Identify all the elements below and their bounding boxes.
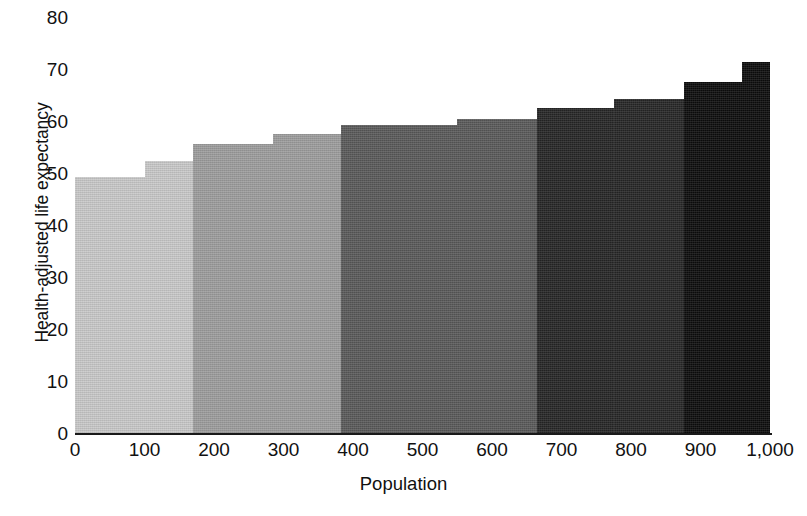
chart-container: Health-adjusted life expectancy 01020304…	[0, 0, 807, 516]
bar-segment	[684, 82, 742, 434]
x-tick-label: 700	[546, 439, 578, 461]
x-tick-label: 0	[70, 439, 81, 461]
bar-segment	[145, 161, 194, 434]
bar-segment	[273, 134, 341, 434]
x-tick-label: 600	[476, 439, 508, 461]
caption-fragment	[8, 506, 803, 515]
y-tick-label: 40	[2, 216, 68, 235]
x-tick-label: 100	[129, 439, 161, 461]
x-axis-line	[75, 433, 772, 435]
x-tick-label: 500	[407, 439, 439, 461]
x-axis-title: Population	[0, 473, 807, 495]
bar-segment	[341, 125, 457, 434]
y-tick-label: 20	[2, 320, 68, 339]
y-tick-label: 60	[2, 112, 68, 131]
x-tick-label: 900	[685, 439, 717, 461]
x-tick-label: 300	[268, 439, 300, 461]
bar-segment	[193, 144, 273, 434]
x-axis-tick-labels: 01002003004005006007008009001,000	[0, 439, 807, 467]
y-tick-label: 30	[2, 268, 68, 287]
y-tick-label: 10	[2, 372, 68, 391]
y-tick-label: 50	[2, 164, 68, 183]
y-tick-label: 80	[2, 8, 68, 27]
bar-segment	[614, 99, 684, 434]
y-tick-label: 70	[2, 60, 68, 79]
bar-segment	[742, 62, 770, 434]
x-tick-label: 800	[615, 439, 647, 461]
bar-segment	[537, 108, 613, 434]
plot-area	[75, 18, 770, 434]
x-tick-label: 200	[198, 439, 230, 461]
x-tick-label: 1,000	[746, 439, 794, 461]
bar-segment	[457, 119, 537, 434]
bar-segment	[75, 177, 145, 434]
x-tick-label: 400	[337, 439, 369, 461]
